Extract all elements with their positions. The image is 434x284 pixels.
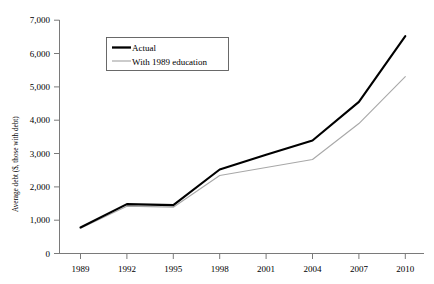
x-tick-label-1989: 1989 [72, 264, 91, 274]
x-tick-label-2010: 2010 [396, 264, 415, 274]
x-tick-label-2007: 2007 [350, 264, 369, 274]
y-tick-label-6000: 6,000 [30, 49, 51, 59]
line-chart: Average debt ($, those with debt) 0 1,00… [0, 0, 434, 284]
x-tick-label-1992: 1992 [118, 264, 136, 274]
y-axis-title: Average debt ($, those with debt) [12, 116, 20, 212]
y-tick-label-0: 0 [46, 249, 51, 259]
y-tick-label-4000: 4,000 [30, 115, 51, 125]
y-tick-label-2000: 2,000 [30, 182, 51, 192]
chart-legend: Actual With 1989 education [107, 38, 229, 71]
x-tick-label-1995: 1995 [164, 264, 183, 274]
x-tick-label-2004: 2004 [304, 264, 323, 274]
x-tick-label-2001: 2001 [257, 264, 275, 274]
x-tick-label-1998: 1998 [211, 264, 230, 274]
legend-label-actual: Actual [132, 43, 156, 53]
legend-label-with-1989-education: With 1989 education [132, 57, 208, 67]
y-tick-label-1000: 1,000 [30, 215, 51, 225]
y-tick-label-7000: 7,000 [30, 15, 51, 25]
chart-container: Average debt ($, those with debt) 0 1,00… [0, 0, 434, 284]
y-tick-label-3000: 3,000 [30, 149, 51, 159]
y-tick-label-5000: 5,000 [30, 82, 51, 92]
